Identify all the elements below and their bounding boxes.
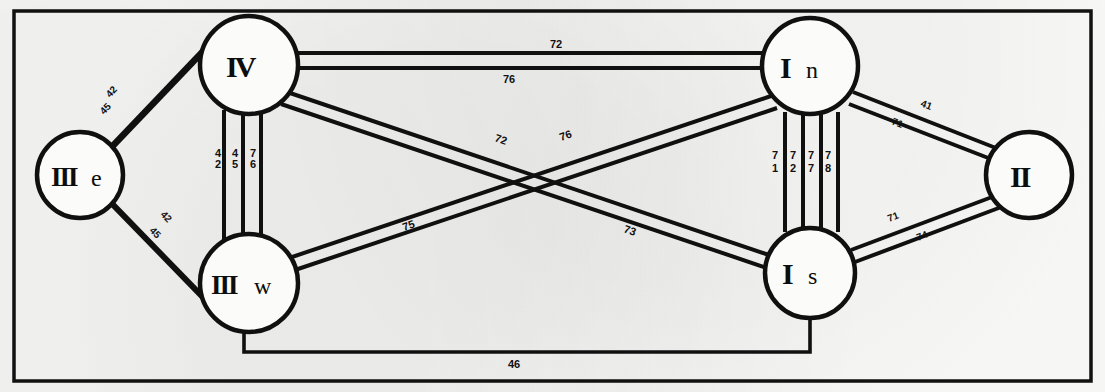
label-In-II-upper: 41 <box>919 98 934 112</box>
label-IV-In-upper: 72 <box>550 38 562 50</box>
link-IIIe-IV <box>101 37 215 160</box>
label-IV-IIIw-a-d2: 2 <box>215 158 221 170</box>
label-IIIe-IIIw-upper: 42 <box>159 209 175 225</box>
link-IIIw-Is <box>244 318 810 352</box>
node-In-roman: I <box>780 51 792 84</box>
link-Is-II <box>851 194 1004 262</box>
label-Is-II-lower: 74 <box>915 228 930 242</box>
label-group-IIIe-IV: 42 45 <box>98 83 120 116</box>
node-Is-suffix: s <box>808 263 817 289</box>
node-IIIe-suffix: e <box>91 165 102 191</box>
node-IIIw-suffix: w <box>254 273 272 299</box>
link-IIIw-In <box>289 96 777 270</box>
label-In-Is-c-d2: 7 <box>808 162 814 174</box>
label-IV-IIIw-b-d2: 5 <box>232 158 238 170</box>
label-In-II-lower: 71 <box>890 116 905 130</box>
label-IV-Is-upper: 72 <box>493 132 508 147</box>
link-IV-In <box>297 53 763 68</box>
node-II-roman: II <box>1010 160 1031 193</box>
label-In-Is-b-d2: 2 <box>790 162 796 174</box>
scanned-page-canvas: III e IV III w I n I s II <box>0 0 1105 392</box>
label-IIIe-IV-upper: 42 <box>104 83 120 99</box>
label-IV-IIIw-c-d2: 6 <box>250 158 256 170</box>
node-Is[interactable]: I s <box>765 228 855 318</box>
node-II[interactable]: II <box>986 132 1072 218</box>
label-IIIe-IV-lower: 45 <box>98 100 114 116</box>
label-group-IV-In: 72 76 <box>503 38 562 85</box>
node-Is-roman: I <box>782 257 794 290</box>
label-In-Is-d-d1: 7 <box>825 149 831 161</box>
label-In-Is-a-d1: 7 <box>772 149 778 161</box>
label-IIIe-IIIw-lower: 45 <box>148 225 164 241</box>
label-In-Is-a-d2: 1 <box>772 162 778 174</box>
node-IV[interactable]: IV <box>200 16 298 114</box>
link-IIIe-IIIw <box>101 191 215 311</box>
label-group-Is-II: 71 74 <box>886 209 930 242</box>
label-IIIw-Is-bottom: 46 <box>508 358 520 370</box>
label-group-IIIe-IIIw: 42 45 <box>148 209 175 241</box>
label-IIIw-In-upper: 76 <box>558 128 573 143</box>
label-In-Is-c-d1: 7 <box>808 149 814 161</box>
label-IV-Is-lower: 73 <box>622 223 637 238</box>
node-In-suffix: n <box>806 57 818 83</box>
label-In-Is-b-d1: 7 <box>790 149 796 161</box>
node-IIIe-roman: III <box>51 162 78 192</box>
label-IV-In-lower: 76 <box>503 73 515 85</box>
node-IIIw-roman: III <box>211 270 238 300</box>
label-group-IV-IIIw: 4 2 4 5 7 6 <box>215 147 256 170</box>
node-IIIw[interactable]: III w <box>200 234 298 332</box>
node-In[interactable]: I n <box>762 18 858 114</box>
label-In-Is-d-d2: 8 <box>825 162 831 174</box>
node-IIIe[interactable]: III e <box>37 132 123 218</box>
label-Is-II-upper: 71 <box>886 209 901 223</box>
link-IV-IIIw <box>224 110 261 240</box>
node-IV-roman: IV <box>226 50 257 83</box>
network-topology-diagram: III e IV III w I n I s II <box>0 0 1105 392</box>
